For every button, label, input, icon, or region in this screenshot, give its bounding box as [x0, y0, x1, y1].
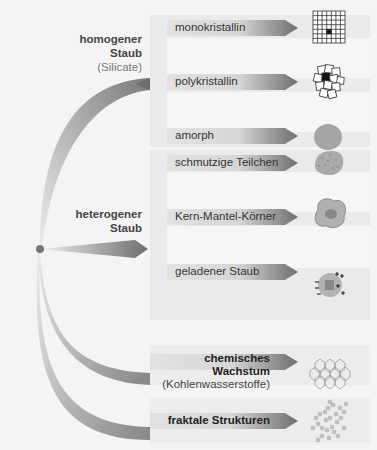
branch-fraktale-strukturen: fraktale Strukturen [150, 414, 270, 427]
branch-polykristallin: polykristallin [175, 75, 238, 87]
core-mantle-grain-icon [315, 199, 345, 228]
branch-geladener-staub: geladener Staub [175, 265, 259, 277]
branch-kern-mantel-koerner: Kern-Mantel-Körner [175, 210, 276, 222]
branch-schmutzige-teilchen: schmutzige Teilchen [175, 156, 278, 168]
origin-dot [36, 245, 44, 253]
branch-chemisches-wachstum: chemisches Wachstum (Kohlenwasserstoffe) [150, 352, 270, 391]
amorphous-blob-icon [314, 124, 342, 150]
branch-monokristallin: monokristallin [175, 21, 245, 33]
group-homogeneous-label: homogener Staub (Silicate) [70, 32, 142, 74]
group-heterogeneous-label: heterogener Staub [70, 207, 142, 235]
branch-amorph: amorph [175, 129, 214, 141]
grid-crystal-icon [313, 11, 345, 43]
